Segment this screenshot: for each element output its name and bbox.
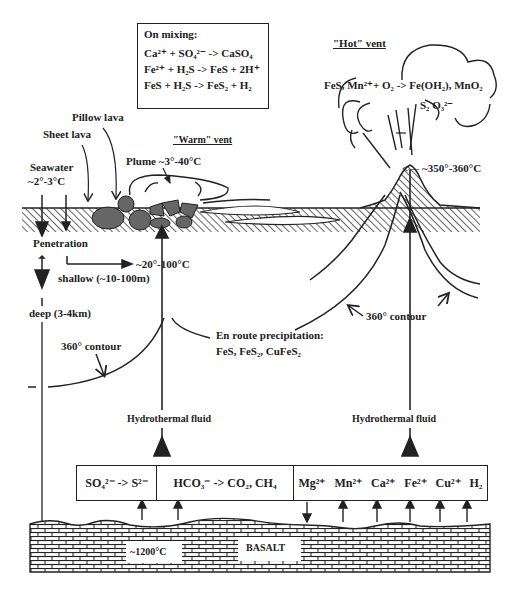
carbonate-reduction-cell: HCO₃⁻ -> CO₂, CH₄ xyxy=(157,466,294,500)
reaction-zone-box: SO₄²⁻ -> S²⁻ HCO₃⁻ -> CO₂, CH₄ Mg²⁺ Mn²⁺… xyxy=(76,465,488,501)
mixing-reactions-box: On mixing: Ca²⁺ + SO₄²⁻ -> CaSO₄ Fe²⁺ + … xyxy=(137,23,269,109)
hot-vent-plume-species: S₂ O₃²⁻ xyxy=(420,100,453,111)
warm-vent-plume-label: Plume ~3°-40°C xyxy=(126,156,201,167)
pillow-lava-label: Pillow lava xyxy=(72,112,124,123)
penetration-label: Penetration xyxy=(30,237,91,250)
deep-depth-label: deep (3-4km) xyxy=(29,308,91,319)
ion-mn: Mn²⁺ xyxy=(334,476,362,491)
mixing-equation-2: Fe²⁺ + H₂S -> FeS + 2H⁺ xyxy=(144,64,268,75)
seawater-temperature: ~2°-3°C xyxy=(28,176,65,187)
ion-ca: Ca²⁺ xyxy=(371,476,395,491)
hydrothermal-fluid-label-left: Hydrothermal fluid xyxy=(127,414,211,424)
shallow-depth-label: shallow (~10-100m) xyxy=(58,273,150,284)
mixing-equation-3: FeS + H₂S -> FeS₂ + H₂ xyxy=(144,80,268,91)
hot-vent-plume xyxy=(339,45,497,168)
warm-vent-title: "Warm" vent xyxy=(173,135,232,145)
hot-vent-plume-reaction: FeS, Mn²⁺+ O₂ -> Fe(OH₂), MnO₂ xyxy=(324,80,483,91)
hydrothermal-fluid-label-right: Hydrothermal fluid xyxy=(352,414,436,424)
ion-h2: H₂ xyxy=(470,476,483,491)
pillow-lava-rocks xyxy=(92,196,198,230)
shallow-temperature: ~20°-100°C xyxy=(136,259,190,270)
hot-vent-temperature: <— ~350°-360°C xyxy=(402,163,481,174)
en-route-minerals: FeS, FeS₂, CuFeS₂ xyxy=(216,346,301,357)
sheet-lava-label: Sheet lava xyxy=(43,129,91,140)
mixing-equation-1: Ca²⁺ + SO₄²⁻ -> CaSO₄ xyxy=(144,48,268,59)
ion-mg: Mg²⁺ xyxy=(299,476,326,491)
contour-label-left: 360° contour xyxy=(61,341,121,352)
seawater-label: Seawater xyxy=(30,162,73,173)
ion-exchange-cell: Mg²⁺ Mn²⁺ Ca²⁺ Fe²⁺ Cu²⁺ H₂ xyxy=(294,466,487,500)
hot-vent-title: "Hot" vent xyxy=(333,38,386,49)
sulfate-reduction-cell: SO₄²⁻ -> S²⁻ xyxy=(77,466,157,500)
flux-arrows xyxy=(138,500,471,522)
magma-temperature: ~1200°C xyxy=(130,547,166,557)
ion-cu: Cu²⁺ xyxy=(436,476,461,491)
contour-label-right: 360° contour xyxy=(366,311,426,322)
mixing-title: On mixing: xyxy=(144,29,268,40)
en-route-precipitation-title: En route precipitation: xyxy=(216,330,324,341)
basalt-label: BASALT xyxy=(246,543,285,553)
warm-vent-plume xyxy=(129,175,270,203)
ion-fe: Fe²⁺ xyxy=(404,476,426,491)
